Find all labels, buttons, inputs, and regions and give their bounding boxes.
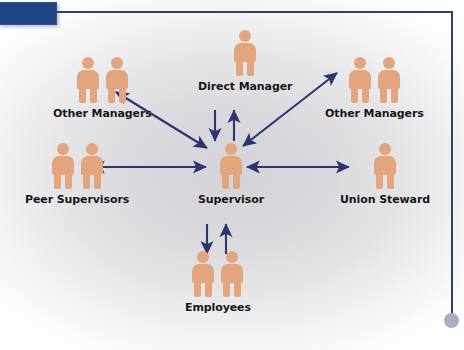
node-label-peer-supervisors: Peer Supervisors	[25, 193, 129, 206]
node-peer-supervisors[interactable]: Peer Supervisors	[25, 143, 129, 206]
person-icon	[376, 57, 402, 103]
node-supervisor[interactable]: Supervisor	[198, 143, 264, 206]
node-label-direct-manager: Direct Manager	[198, 80, 292, 93]
node-label-other-managers-right: Other Managers	[325, 107, 424, 120]
person-icon	[50, 143, 76, 189]
node-label-other-managers-left: Other Managers	[53, 107, 152, 120]
figure-group	[372, 143, 398, 189]
node-union-steward[interactable]: Union Steward	[340, 143, 430, 206]
node-other-managers-left[interactable]: Other Managers	[53, 57, 152, 120]
node-other-managers-right[interactable]: Other Managers	[325, 57, 424, 120]
person-icon	[347, 57, 373, 103]
node-employees[interactable]: Employees	[185, 251, 251, 314]
person-icon	[190, 251, 216, 297]
person-icon	[372, 143, 398, 189]
person-icon	[218, 143, 244, 189]
figure-group	[50, 143, 105, 189]
node-direct-manager[interactable]: Direct Manager	[198, 30, 292, 93]
person-icon	[219, 251, 245, 297]
figure-group	[232, 30, 258, 76]
figure-group	[218, 143, 244, 189]
slide-canvas: Direct Manager Other Managers Other Mana…	[0, 0, 464, 350]
node-label-employees: Employees	[185, 301, 251, 314]
person-icon	[75, 57, 101, 103]
figure-group	[75, 57, 130, 103]
person-icon	[232, 30, 258, 76]
node-label-supervisor: Supervisor	[198, 193, 264, 206]
figure-group	[190, 251, 245, 297]
person-icon	[79, 143, 105, 189]
figure-group	[347, 57, 402, 103]
person-icon	[104, 57, 130, 103]
node-label-union-steward: Union Steward	[340, 193, 430, 206]
